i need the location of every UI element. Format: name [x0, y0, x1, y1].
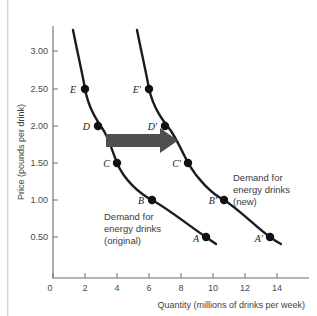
datapoint-A [202, 233, 210, 241]
point-label-A: A [192, 233, 200, 244]
y-axis-title: Price (pounds per drink) [16, 104, 26, 200]
x-tick-label-4: 4 [114, 283, 119, 293]
y-axis-ticks [53, 51, 58, 237]
new-annotation-line-3: (new) [233, 196, 257, 207]
x-tick-label-10: 10 [208, 283, 218, 293]
point-label-A-prime: A' [254, 233, 264, 244]
datapoint-B [148, 196, 156, 204]
datapoint-C [113, 159, 121, 167]
point-label-C-prime: C' [172, 158, 182, 169]
datapoint-D [94, 122, 102, 130]
y-tick-label-3-00: 3.00 [30, 46, 48, 56]
x-tick-label-0: 0 [47, 283, 52, 293]
chart-canvas: 3.00 2.50 2.00 1.50 1.00 0.50 Price (pou… [0, 0, 317, 316]
x-tick-label-2: 2 [82, 283, 87, 293]
x-tick-label-8: 8 [178, 283, 183, 293]
x-axis-title: Quantity (millions of drinks per week) [157, 300, 305, 310]
point-label-C: C [103, 158, 110, 169]
x-axis-ticks [53, 273, 277, 278]
datapoint-E [81, 85, 89, 93]
datapoints-new [145, 85, 274, 241]
original-annotation-line-2: energy drinks [104, 223, 161, 234]
point-label-E-prime: E' [132, 84, 142, 95]
x-tick-label-6: 6 [146, 283, 151, 293]
point-label-D-prime: D' [147, 121, 158, 132]
new-curve-annotation: Demand for energy drinks (new) [233, 172, 290, 207]
y-tick-label-2-00: 2.00 [30, 121, 48, 131]
datapoint-D-prime [161, 122, 169, 130]
y-tick-label-1-00: 1.00 [30, 195, 48, 205]
point-label-E: E [69, 84, 76, 95]
y-tick-label-0-50: 0.50 [30, 232, 48, 242]
y-tick-label-2-50: 2.50 [30, 84, 48, 94]
original-annotation-line-1: Demand for [104, 211, 154, 222]
point-label-B-prime: B' [209, 195, 218, 206]
datapoint-C-prime [184, 159, 192, 167]
datapoint-A-prime [266, 233, 274, 241]
point-label-B: B [138, 195, 144, 206]
demand-shift-figure: 3.00 2.50 2.00 1.50 1.00 0.50 Price (pou… [0, 0, 317, 316]
original-annotation-line-3: (original) [104, 235, 141, 246]
x-tick-label-12: 12 [240, 283, 250, 293]
original-curve-annotation: Demand for energy drinks (original) [104, 211, 161, 246]
new-annotation-line-2: energy drinks [233, 184, 290, 195]
x-tick-label-14: 14 [272, 283, 282, 293]
rightward-shift-arrow [106, 128, 178, 153]
datapoint-E-prime [145, 85, 153, 93]
new-annotation-line-1: Demand for [233, 172, 283, 183]
point-label-D: D [82, 121, 91, 132]
datapoint-B-prime [220, 196, 228, 204]
y-tick-label-1-50: 1.50 [30, 158, 48, 168]
